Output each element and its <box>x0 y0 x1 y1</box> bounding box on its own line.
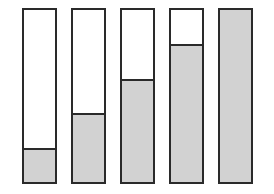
level-bar-5 <box>218 8 253 184</box>
level-bar-3 <box>120 8 155 184</box>
bar-fill <box>24 148 55 182</box>
bar-fill <box>122 79 153 182</box>
bar-fill <box>220 10 251 182</box>
level-bar-1 <box>22 8 57 184</box>
level-bar-2 <box>71 8 106 184</box>
bar-fill <box>171 44 202 182</box>
level-bar-4 <box>169 8 204 184</box>
bar-fill <box>73 113 104 182</box>
